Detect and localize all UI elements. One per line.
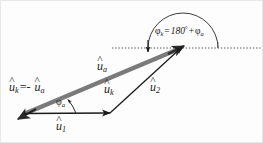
value-180: 180 [171, 26, 185, 36]
phi-a-angle-arc [68, 100, 76, 114]
hat-accent-u2: ^ [150, 75, 155, 86]
subscript-a-1: a [40, 86, 44, 95]
label-phi-a: φa [56, 97, 65, 109]
u1-vector [24, 113, 110, 114]
hat-accent-2: ^ [35, 75, 40, 86]
subscript-1: 1 [62, 125, 66, 134]
equals-minus-sign: =- [19, 80, 32, 94]
equals-sign: = [163, 26, 170, 36]
plus-sign: + [188, 26, 195, 36]
hat-accent-uk: ^ [104, 77, 109, 88]
subscript-2: 2 [156, 86, 160, 95]
subscript-phi-a: a [62, 101, 65, 108]
subscript-k-uk: k [110, 88, 114, 97]
vector-diagram-figure: ^ u k=- ^ u a ^ u a ^ u k ^ u 2 ^ u 1 [0, 0, 263, 143]
label-uk-equals-minus-ua: ^ u k=- ^ u a [9, 81, 44, 95]
hat-accent-1: ^ [9, 75, 14, 86]
label-uk: ^ u k [104, 83, 114, 97]
hat-accent-u1: ^ [56, 114, 61, 125]
label-phi-k-equation: φk=180°+φa [155, 26, 204, 37]
figure-border [1, 1, 263, 143]
label-u2: ^ u 2 [150, 81, 160, 95]
label-u1: ^ u 1 [56, 120, 66, 134]
subscript-a-ua: a [103, 65, 107, 74]
hat-accent-ua: ^ [97, 54, 102, 65]
label-ua: ^ u a [97, 60, 107, 74]
subscript-phi-a-2: a [201, 30, 204, 37]
diagram-canvas [0, 0, 263, 143]
u2-vector [110, 47, 182, 113]
